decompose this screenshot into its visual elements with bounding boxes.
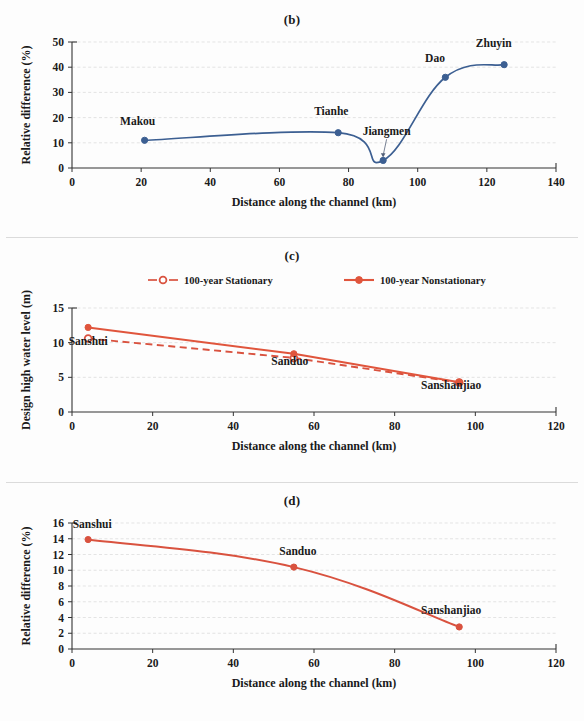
legend-entry: 100-year Nonstationary [344,275,486,286]
data-point: Relative difference: (96, 2.8) [456,624,462,630]
y-axis-title: Design high water level (m) [19,290,33,430]
x-tick-label: 80 [389,420,401,432]
y-tick-label: 16 [53,517,65,529]
x-tick-label: 100 [467,657,485,669]
x-tick-label: 0 [69,420,75,432]
x-tick-label: 140 [547,176,565,188]
x-tick-label: 60 [308,657,320,669]
panel-c: (c) 020406080100120051015Distance along … [0,240,584,485]
point-label: Zhuyin [476,37,512,50]
data-point: Relative difference: (55, 10.4) [291,564,297,570]
y-tick-label: 6 [58,596,64,608]
y-tick-label: 40 [53,61,65,73]
y-tick-label: 8 [58,580,64,592]
y-tick-label: 50 [53,36,65,48]
x-tick-label: 100 [409,176,427,188]
point-label: Sanduo [279,545,316,557]
data-point-marker [291,564,297,570]
x-tick-label: 60 [274,176,286,188]
y-tick-label: 0 [58,406,64,418]
chart-b: 02040608010012014001020304050Distance al… [0,28,584,233]
data-point-marker [85,536,91,542]
figure-page: (b) 02040608010012014001020304050Distanc… [0,0,584,721]
x-tick-label: 80 [343,176,355,188]
x-tick-label: 20 [147,420,159,432]
panel-d: (d) 0204060801001200246810121416Distance… [0,485,584,721]
point-label: Sanshui [69,335,109,347]
leader-line [383,139,386,155]
x-axis-title: Distance along the channel (km) [232,676,397,690]
leader-arrowhead [381,153,386,157]
chart-c: 020406080100120051015Distance along the … [0,264,584,476]
data-point-marker [380,157,386,163]
x-tick-label: 40 [228,657,240,669]
y-tick-label: 10 [53,564,65,576]
data-point-marker [501,62,507,68]
point-label: Dao [425,52,445,64]
panel-c-title: (c) [0,240,584,264]
annotations-group: SanshuiSanduoSanshanjiao [69,335,482,392]
panel-b-title: (b) [0,0,584,28]
chart-d: 0204060801001200246810121416Distance alo… [0,509,584,714]
y-tick-label: 20 [53,112,65,124]
data-point-marker [456,624,462,630]
chart-d-canvas: 0204060801001200246810121416Distance alo… [0,509,584,714]
y-tick-label: 4 [58,612,64,624]
axes: 02040608010012014001020304050Distance al… [19,36,565,209]
x-axis-title: Distance along the channel (km) [232,195,397,209]
point-label: Makou [120,115,156,127]
x-tick-label: 80 [389,657,401,669]
axes: 0204060801001200246810121416Distance alo… [19,517,565,690]
legend-entry: 100-year Stationary [148,275,274,286]
data-line-relative-difference [88,540,459,627]
point-label: Sanshui [73,518,113,530]
x-tick-label: 120 [547,420,565,432]
data-point-marker [442,74,448,80]
y-tick-label: 12 [53,549,65,561]
y-tick-label: 2 [58,627,64,639]
y-tick-label: 30 [53,86,65,98]
data-series-group: Relative difference: (4, 13.9)Relative d… [85,536,462,630]
data-point-marker [335,130,341,136]
data-point: Relative difference: (108, 36) [442,74,448,80]
point-label: Jiangmen [363,125,412,138]
panel-separator-1 [6,237,578,238]
annotations-group: MakouTianheJiangmenDaoZhuyin [120,37,512,157]
gridlines [72,42,556,143]
point-label: Sanduo [271,355,308,367]
chart-c-canvas: 020406080100120051015Distance along the … [0,264,584,476]
x-tick-label: 100 [467,420,485,432]
data-point: Relative difference: (4, 13.9) [85,536,91,542]
panel-b: (b) 02040608010012014001020304050Distanc… [0,0,584,240]
x-tick-label: 120 [547,657,565,669]
legend-label: 100-year Stationary [184,275,274,286]
axes: 020406080100120051015Distance along the … [19,290,565,453]
legend-marker [160,277,167,284]
data-point: Relative difference: (21, 11) [142,137,148,143]
y-tick-label: 10 [53,137,65,149]
y-axis-title: Relative difference (%) [19,526,33,645]
y-tick-label: 0 [58,643,64,655]
panel-d-title: (d) [0,485,584,509]
gridlines [72,523,556,633]
gridlines [72,308,556,377]
point-label: Tianhe [314,105,348,117]
x-tick-label: 20 [147,657,159,669]
legend-marker [356,277,363,284]
data-point-marker [142,137,148,143]
legend-label: 100-year Nonstationary [380,275,486,286]
data-point: Relative difference: (90, 3) [380,157,386,163]
legend: 100-year Stationary100-year Nonstationar… [148,275,486,286]
x-tick-label: 120 [478,176,496,188]
x-tick-label: 60 [308,420,320,432]
x-tick-label: 0 [69,657,75,669]
y-axis-title: Relative difference (%) [19,45,33,164]
data-point: Relative difference: (125, 41) [501,62,507,68]
chart-b-canvas: 02040608010012014001020304050Distance al… [0,28,584,233]
x-tick-label: 0 [69,176,75,188]
data-point-marker [85,324,91,330]
x-tick-label: 20 [135,176,147,188]
y-tick-label: 5 [58,371,64,383]
y-tick-label: 15 [53,302,65,314]
point-label: Sanshanjiao [421,604,481,617]
